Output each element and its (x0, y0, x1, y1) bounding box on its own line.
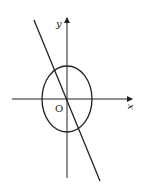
coordinate-diagram: y x O (0, 0, 146, 190)
x-axis-label: x (126, 104, 137, 110)
y-axis-label: y (55, 18, 62, 29)
origin-label: O (55, 103, 63, 114)
